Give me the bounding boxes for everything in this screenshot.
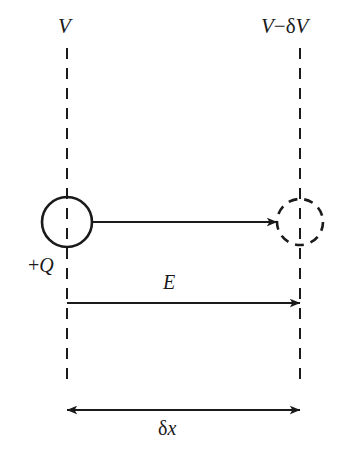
label-potential-left: V	[58, 16, 71, 37]
charge-initial-circle	[42, 197, 92, 247]
label-displacement: δx	[158, 418, 176, 438]
potential-left-symbol: V	[58, 14, 71, 38]
label-potential-right: V−δV	[261, 16, 308, 37]
charge-symbol: Q	[39, 254, 53, 276]
potential-right-delta-symbol: δ	[286, 14, 296, 38]
label-field: E	[163, 272, 175, 292]
label-charge: +Q	[28, 255, 54, 275]
charge-sign: +	[28, 254, 39, 276]
potential-right-minus-sign: −	[274, 14, 286, 38]
potential-right-v2-symbol: V	[296, 14, 309, 38]
field-symbol: E	[163, 271, 175, 293]
diagram-canvas	[0, 0, 349, 459]
displacement-x-symbol: x	[167, 417, 176, 439]
potential-right-v-symbol: V	[261, 14, 274, 38]
physics-diagram: V V−δV +Q E δx	[0, 0, 349, 459]
